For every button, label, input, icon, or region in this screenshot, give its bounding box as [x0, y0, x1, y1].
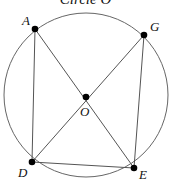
point-e: [131, 165, 138, 172]
segment-ad: [32, 29, 35, 162]
segment-ge: [134, 35, 144, 168]
point-d: [29, 159, 36, 166]
label-d: D: [18, 166, 27, 179]
point-a: [32, 26, 39, 33]
label-a: A: [22, 14, 30, 27]
point-g: [141, 32, 148, 39]
label-g: G: [150, 20, 159, 33]
label-o: O: [80, 105, 89, 118]
label-e: E: [139, 168, 147, 180]
point-o: [83, 94, 90, 101]
